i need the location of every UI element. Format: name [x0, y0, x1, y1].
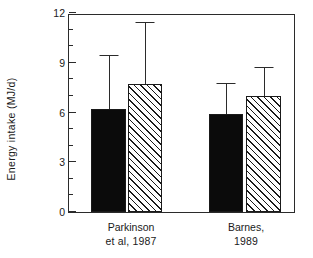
y-axis-title: Energy intake (MJ/d) — [0, 0, 22, 258]
y-tick-label-6: 6 — [59, 107, 65, 118]
errorbar-barnes-solid — [226, 84, 227, 114]
errorcap-barnes-hatched — [254, 67, 273, 68]
errorcap-barnes-solid — [217, 83, 236, 84]
bar-parkinson-hatched[interactable] — [128, 84, 162, 212]
x-group-label-barnes-line2: 1989 — [196, 234, 296, 248]
errorbar-barnes-hatched — [264, 68, 265, 96]
y-tick-label-9: 9 — [59, 58, 65, 69]
x-group-label-parkinson-line2: et al, 1987 — [76, 234, 186, 248]
x-group-label-parkinson: Parkinson et al, 1987 — [76, 220, 186, 248]
bar-barnes-hatched[interactable] — [246, 96, 281, 212]
bars-layer — [69, 15, 294, 212]
errorcap-parkinson-solid — [99, 55, 118, 56]
chart-figure: Energy intake (MJ/d) 0 3 6 9 12 — [0, 0, 313, 258]
bar-barnes-solid[interactable] — [209, 114, 243, 212]
y-tick-12: 12 — [69, 12, 76, 13]
x-group-label-parkinson-line1: Parkinson — [76, 220, 186, 234]
y-tick-label-12: 12 — [53, 8, 65, 19]
bar-parkinson-solid[interactable] — [91, 109, 126, 212]
x-group-label-barnes: Barnes, 1989 — [196, 220, 296, 248]
y-tick-label-0: 0 — [59, 207, 65, 218]
errorbar-parkinson-solid — [109, 56, 110, 109]
errorcap-parkinson-hatched — [136, 22, 155, 23]
x-group-label-barnes-line1: Barnes, — [196, 220, 296, 234]
errorbar-parkinson-hatched — [145, 23, 146, 84]
y-tick-label-3: 3 — [59, 157, 65, 168]
plot-area: 0 3 6 9 12 — [68, 14, 295, 213]
